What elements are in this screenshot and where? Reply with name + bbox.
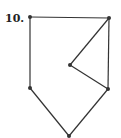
edge-BC bbox=[70, 18, 109, 65]
vertex-D bbox=[106, 87, 110, 91]
vertex-A bbox=[28, 15, 32, 19]
figure-edges bbox=[30, 17, 109, 136]
edge-CD bbox=[70, 65, 108, 89]
edge-EF bbox=[30, 88, 69, 136]
edge-DE bbox=[69, 89, 108, 136]
figure-vertices bbox=[28, 15, 111, 138]
vertex-F bbox=[28, 86, 32, 90]
edge-AB bbox=[30, 17, 109, 18]
vertex-B bbox=[107, 16, 111, 20]
vertex-E bbox=[67, 134, 71, 138]
edge-BD bbox=[108, 18, 109, 89]
polygon-figure bbox=[0, 0, 121, 138]
vertex-C bbox=[68, 63, 72, 67]
